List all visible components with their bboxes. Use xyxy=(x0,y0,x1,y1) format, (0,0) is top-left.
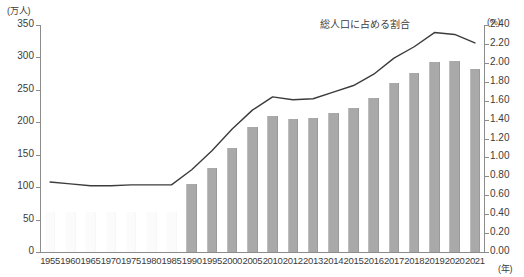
line-series-path xyxy=(50,33,475,186)
x-axis-labels: 1955196019651970197519801985199019952000… xyxy=(40,256,485,272)
y2-axis-tick-label: 0.20 xyxy=(490,227,524,237)
y2-axis-tick-label: 1.40 xyxy=(490,114,524,124)
y2-axis-tick-label: 2.40 xyxy=(490,19,524,29)
y2-axis-tick-label: 2.00 xyxy=(490,57,524,67)
y2-axis-tick-label: 1.20 xyxy=(490,133,524,143)
y2-axis-tick-label: 1.60 xyxy=(490,95,524,105)
y2-axis-tick-label: 0.60 xyxy=(490,189,524,199)
plot-area: 050100150200250300350 0.000.200.400.600.… xyxy=(40,25,485,253)
y-axis-tick-label: 150 xyxy=(0,149,34,159)
y2-axis-tick-label: 0.40 xyxy=(490,208,524,218)
y-axis-tick-label: 350 xyxy=(0,19,34,29)
x-axis-tick-label: 2021 xyxy=(462,256,488,266)
y-axis-unit-label: (万人) xyxy=(7,4,30,17)
x-axis-unit-label: (年) xyxy=(498,262,512,275)
chart-container: (万人) (%) (年) 総人口に占める割合 05010015020025030… xyxy=(0,0,524,277)
y2-axis-tick-label: 2.20 xyxy=(490,38,524,48)
y-axis-tick-label: 100 xyxy=(0,181,34,191)
y2-axis-tick-label: 1.00 xyxy=(490,151,524,161)
y2-axis-tick-label: 0.80 xyxy=(490,170,524,180)
y-axis-tick-label: 0 xyxy=(0,246,34,256)
y-axis-tick-label: 50 xyxy=(0,214,34,224)
line-series-layer xyxy=(40,25,485,253)
y-axis-tick-label: 200 xyxy=(0,116,34,126)
y2-axis-tick-label: 0.00 xyxy=(490,246,524,256)
y-axis-tick-label: 300 xyxy=(0,51,34,61)
y-axis-tick-label: 250 xyxy=(0,84,34,94)
y2-axis-tick-label: 1.80 xyxy=(490,76,524,86)
